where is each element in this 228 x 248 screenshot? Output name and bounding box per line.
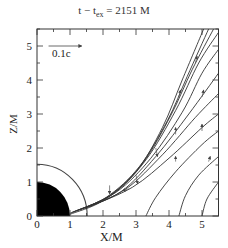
black-hole-disk [37, 182, 70, 216]
x-tick-label: 4 [166, 218, 172, 230]
y-tick-label: 3 [27, 108, 33, 120]
y-tick-label: 0 [27, 210, 33, 222]
y-tick-label: 5 [27, 40, 33, 52]
y-tick-label: 2 [27, 142, 33, 154]
field-line [80, 73, 219, 210]
field-line [77, 49, 219, 211]
field-line [90, 114, 219, 206]
x-axis-label: X/M [100, 230, 123, 245]
x-tick-label: 3 [133, 218, 139, 230]
x-tick-label: 1 [67, 218, 73, 230]
y-tick-label: 4 [27, 74, 33, 86]
field-line [73, 32, 218, 212]
velocity-scale-label: 0.1c [52, 47, 71, 59]
velocity-arrow [209, 157, 211, 162]
y-axis-label: Z/M [7, 114, 19, 134]
field-line [179, 157, 219, 217]
y-tick-label: 1 [27, 176, 33, 188]
x-tick-label: 5 [199, 218, 205, 230]
field-line [70, 29, 209, 213]
x-tick-label: 2 [100, 218, 106, 230]
x-tick-label: 0 [34, 218, 40, 230]
plot-area: 012345012345 [0, 0, 228, 248]
